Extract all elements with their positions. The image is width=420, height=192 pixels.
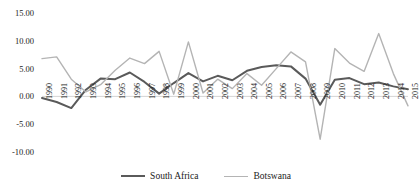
x-tick-label: 1990	[45, 83, 54, 99]
line-swatch-light-icon	[224, 176, 248, 177]
x-tick-label: 2009	[323, 83, 332, 99]
x-tick-label: 2000	[192, 83, 201, 99]
y-tick-label: 10.00	[0, 36, 34, 46]
x-tick-label: 2007	[294, 83, 303, 99]
x-tick-label: 2008	[309, 83, 318, 99]
x-tick-label: 1994	[104, 83, 113, 99]
y-tick-label: -10.00	[0, 147, 34, 157]
legend-item-south-africa: South Africa	[121, 171, 198, 181]
x-tick-label: 2004	[250, 83, 259, 99]
x-tick-label: 2001	[206, 83, 215, 99]
legend-label-botswana: Botswana	[253, 171, 290, 181]
x-tick-label: 2013	[382, 83, 391, 99]
y-tick-label: 0.00	[0, 91, 34, 101]
x-tick-label: 1992	[74, 83, 83, 99]
line-swatch-dark-icon	[121, 175, 145, 177]
chart-legend: South Africa Botswana	[0, 171, 412, 181]
x-tick-label: 1993	[89, 83, 98, 99]
x-tick-label: 1997	[148, 83, 157, 99]
y-tick-label: 5.00	[0, 64, 34, 74]
x-tick-label: 2003	[236, 83, 245, 99]
x-tick-label: 1996	[133, 83, 142, 99]
y-tick-label: 15.00	[0, 8, 34, 18]
x-tick-label: 1999	[177, 83, 186, 99]
x-tick-label: 2011	[353, 83, 362, 99]
x-tick-label: 1995	[118, 83, 127, 99]
x-tick-label: 2014	[397, 83, 406, 99]
x-tick-label: 2002	[221, 83, 230, 99]
x-tick-label: 2005	[265, 83, 274, 99]
x-tick-label: 1991	[60, 83, 69, 99]
legend-item-botswana: Botswana	[224, 171, 290, 181]
legend-label-south-africa: South Africa	[150, 171, 198, 181]
y-tick-label: -5.00	[0, 119, 34, 129]
x-tick-label: 2015	[411, 83, 420, 99]
x-tick-label: 2010	[338, 83, 347, 99]
x-tick-label: 1998	[162, 83, 171, 99]
x-tick-label: 2006	[279, 83, 288, 99]
x-tick-label: 2012	[367, 83, 376, 99]
